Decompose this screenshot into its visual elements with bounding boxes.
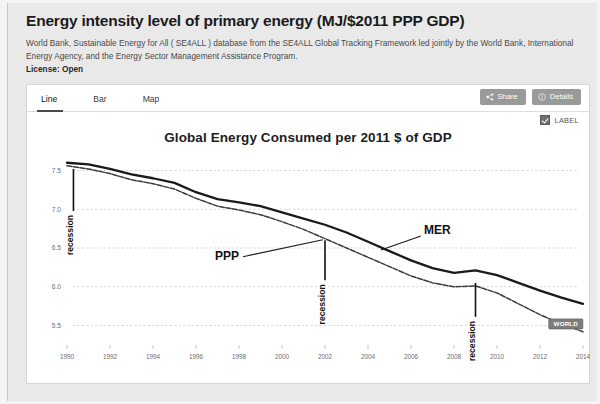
x-axis-tick-label: 1992	[103, 353, 118, 360]
x-axis-tick-label: 2010	[490, 353, 505, 360]
screenshot-root: Energy intensity level of primary energy…	[0, 0, 600, 404]
dataset-header: Energy intensity level of primary energy…	[26, 11, 586, 74]
y-axis-tick-label: 7.0	[52, 206, 61, 213]
chart-title: Global Energy Consumed per 2011 $ of GDP	[27, 130, 589, 145]
mer-leader-line	[381, 236, 421, 250]
license-row: License: Open	[26, 64, 586, 74]
series-label-ppp: PPP	[215, 249, 239, 263]
y-axis-tick-label: 7.5	[52, 167, 61, 174]
label-checkbox-text: LABEL	[554, 116, 579, 125]
card-actions: Share Details	[480, 89, 581, 105]
x-axis-tick-label: 2012	[533, 353, 548, 360]
details-button-label: Details	[550, 92, 573, 102]
y-axis-tick-label: 6.5	[52, 244, 61, 251]
series-end-badge-label: WORLD	[554, 320, 579, 327]
x-axis-tick-label: 2008	[447, 353, 462, 360]
chart-plot-area: 7.57.06.56.05.51990199219941996199820002…	[27, 145, 591, 395]
recession-annotation-label: recession	[65, 215, 75, 255]
x-axis-tick-label: 1998	[232, 353, 247, 360]
page-panel: Energy intensity level of primary energy…	[7, 3, 597, 401]
tab-bar[interactable]: Bar	[93, 85, 122, 112]
x-axis-tick-label: 1994	[146, 353, 161, 360]
x-axis-tick-label: 1990	[60, 353, 75, 360]
label-toggle-row: LABEL	[27, 112, 589, 128]
page-title: Energy intensity level of primary energy…	[26, 11, 586, 31]
x-axis-tick-label: 2000	[275, 353, 290, 360]
share-icon	[486, 93, 494, 101]
y-axis-tick-label: 6.0	[52, 283, 61, 290]
x-axis-tick-label: 2004	[361, 353, 376, 360]
label-checkbox-group[interactable]: LABEL	[540, 115, 579, 125]
series-line-mer[interactable]	[67, 163, 583, 304]
info-circle-icon	[538, 93, 546, 101]
view-tabbar: Line Bar Map	[27, 85, 589, 112]
details-button[interactable]: Details	[532, 89, 581, 105]
label-checkbox[interactable]	[540, 115, 550, 125]
chart-card: Line Bar Map	[26, 84, 590, 384]
recession-annotation-label: recession	[317, 284, 327, 324]
x-axis-tick-label: 2002	[318, 353, 333, 360]
license-label: License:	[26, 64, 60, 74]
tab-line[interactable]: Line	[41, 85, 73, 112]
series-label-mer: MER	[424, 223, 451, 237]
tab-map[interactable]: Map	[143, 85, 176, 112]
share-button[interactable]: Share	[480, 89, 526, 105]
x-axis-tick-label: 1996	[189, 353, 204, 360]
license-value: Open	[62, 64, 83, 74]
y-axis-tick-label: 5.5	[52, 322, 61, 329]
share-button-label: Share	[498, 92, 518, 102]
recession-annotation-label: recession	[467, 321, 477, 361]
dataset-source-text: World Bank, Sustainable Energy for All (…	[26, 37, 584, 62]
x-axis-tick-label: 2006	[404, 353, 419, 360]
line-chart-svg: 7.57.06.56.05.51990199219941996199820002…	[27, 145, 591, 395]
x-axis-tick-label: 2014	[576, 353, 591, 360]
